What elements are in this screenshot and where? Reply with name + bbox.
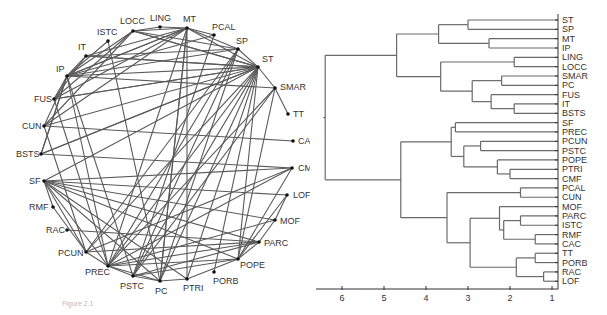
x-tick-label-4: 4 [424,293,429,303]
x-tick-label-2: 2 [508,293,513,303]
dendrogram-chart: STSPMTIPLINGLOCCSMARPCFUSITBSTSSFPRECPCU… [0,0,607,315]
x-tick-label-3: 3 [466,293,471,303]
leaf-label-lof: LOF [562,276,580,286]
figure-caption: Figure 2.1 [62,300,94,307]
x-tick-label-5: 5 [382,293,387,303]
dendrogram-leaf-labels: STSPMTIPLINGLOCCSMARPCFUSITBSTSSFPRECPCU… [555,14,589,289]
dendrogram-x-axis: 654321 [316,286,558,303]
dendrogram-branches [323,20,558,281]
x-tick-label-6: 6 [340,293,345,303]
x-tick-label-1: 1 [550,293,555,303]
